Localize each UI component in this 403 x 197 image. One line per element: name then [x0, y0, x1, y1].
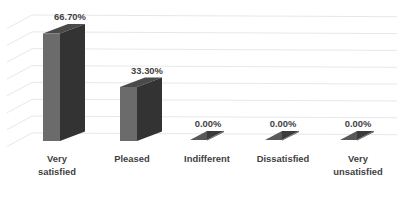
category-label-indifferent: Indifferent [184, 153, 230, 164]
category-label-pleased: Pleased [114, 153, 150, 164]
data-label-pleased: 33.30% [131, 65, 163, 76]
data-label-very-unsatisfied: 0.00% [345, 118, 372, 129]
data-label-dissatisfied: 0.00% [270, 118, 297, 129]
category-label-very-satisfied-line1: Very [47, 153, 68, 164]
chart-container: 66.70% 33.30% 0.00% 0.00% 0.00% Very sat… [0, 0, 403, 197]
bar-side-face [137, 78, 162, 142]
data-label-indifferent: 0.00% [195, 118, 222, 129]
category-label-dissatisfied: Dissatisfied [257, 153, 310, 164]
category-label-very-unsatisfied-line2: unsatisfied [333, 166, 383, 177]
bar-chart-3d: 66.70% 33.30% 0.00% 0.00% 0.00% Very sat… [0, 0, 403, 197]
category-label-very-unsatisfied-line1: Very [348, 153, 369, 164]
bar-front-face [120, 87, 137, 141]
data-label-very-satisfied: 66.70% [54, 11, 86, 22]
bar-side-face [60, 24, 85, 141]
bar-very-satisfied[interactable] [43, 24, 85, 141]
category-label-very-satisfied-line2: satisfied [38, 166, 76, 177]
bar-pleased[interactable] [120, 78, 162, 142]
bar-front-face [43, 34, 60, 142]
